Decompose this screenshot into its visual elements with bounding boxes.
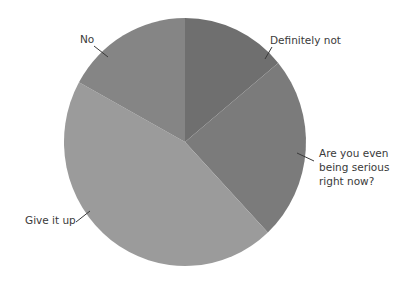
label-give-it-up: Give it up [25, 213, 76, 227]
label-definitely-not: Definitely not [270, 33, 341, 47]
label-no: No [80, 32, 94, 46]
pie-slices [64, 18, 306, 266]
label-serious-line-3: right now? [319, 174, 389, 188]
leader-line-give-it-up [76, 211, 90, 222]
label-definitely-not-text: Definitely not [270, 33, 341, 47]
label-give-it-up-text: Give it up [25, 213, 76, 227]
label-no-text: No [80, 32, 94, 46]
label-serious-line-1: Are you even [319, 146, 389, 160]
label-serious: Are you even being serious right now? [319, 146, 389, 188]
label-serious-line-2: being serious [319, 160, 389, 174]
